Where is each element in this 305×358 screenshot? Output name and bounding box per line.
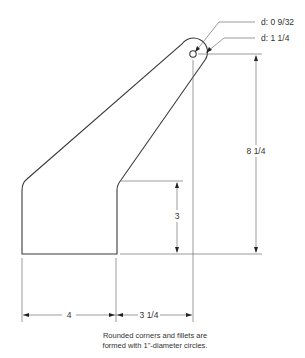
arrow-up-icon [175, 182, 179, 188]
arrow-right-icon [186, 313, 192, 317]
technical-drawing: 8 1/4 3 4 3 1/4 d: 0 9/32 d: 1 1/4 Round… [0, 0, 305, 358]
dimension-label-right-width: 3 1/4 [140, 310, 159, 320]
callout-hole-diameter: d: 0 9/32 [261, 17, 294, 27]
dimension-label-step: 3 [175, 211, 180, 221]
arrow-down-icon [175, 247, 179, 253]
leader-hole [196, 22, 255, 51]
arrow-left-icon [23, 313, 29, 317]
note-line-2: formed with 1"-diameter circles. [103, 341, 208, 350]
arrow-right-icon [109, 313, 115, 317]
dimension-label-left-width: 4 [67, 310, 72, 320]
leader-tab [208, 38, 255, 51]
callout-tab-diameter: d: 1 1/4 [261, 33, 290, 43]
arrow-up-icon [254, 55, 258, 61]
arrow-left-icon [117, 313, 123, 317]
arrow-down-icon [254, 247, 258, 253]
dimension-label-height: 8 1/4 [247, 146, 266, 156]
note-line-1: Rounded corners and fillets are [103, 331, 207, 340]
